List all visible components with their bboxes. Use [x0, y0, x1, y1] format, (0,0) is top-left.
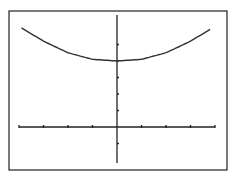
chart-plot — [0, 0, 229, 179]
plot-frame — [9, 11, 227, 170]
axes — [19, 15, 215, 163]
data-series-curve — [22, 28, 211, 61]
